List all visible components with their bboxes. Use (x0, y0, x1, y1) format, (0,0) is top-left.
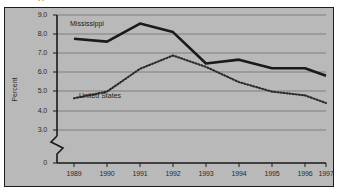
ytick-label-0: 0 (21, 159, 47, 166)
ytick-label-4: 4.0 (21, 107, 47, 114)
xtick-label-1995: 1995 (258, 170, 286, 177)
xtick-label-1993: 1993 (192, 170, 220, 177)
xtick-label-1992: 1992 (159, 170, 187, 177)
series-line-mississippi (74, 24, 326, 76)
ytick-label-5: 5.0 (21, 87, 47, 94)
xtick-label-1994: 1994 (225, 170, 253, 177)
chart-plot-frame: 9.0 8.0 7.0 6.0 5.0 4.0 3.0 0 Percent 19… (4, 7, 334, 187)
xtick-label-1990: 1990 (93, 170, 121, 177)
xtick-label-1991: 1991 (126, 170, 154, 177)
ytick-label-9: 9.0 (21, 11, 47, 18)
y-axis-spine (51, 15, 63, 163)
ytick-label-7: 7.0 (21, 49, 47, 56)
series-label-mississippi: Mississippi (70, 20, 104, 27)
chart-figure: ı ı (0, 0, 342, 195)
ytick-label-3: 3.0 (21, 126, 47, 133)
title-fragment-text: ı ı (38, 0, 44, 2)
cropped-title-fragment: ı ı (0, 0, 342, 7)
gridlines (57, 15, 326, 130)
ytick-label-6: 6.0 (21, 68, 47, 75)
xtick-label-1997: 1997 (312, 170, 340, 177)
y-axis-title: Percent (11, 67, 18, 113)
chart-canvas (5, 8, 335, 188)
series-label-united-states: United States (79, 92, 121, 99)
ytick-label-8: 8.0 (21, 30, 47, 37)
xtick-label-1989: 1989 (60, 170, 88, 177)
